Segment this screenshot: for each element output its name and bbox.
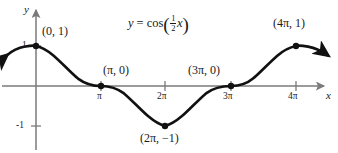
y-tick-label-1: 1 — [22, 41, 27, 51]
point-marker-4pi-1 — [293, 43, 299, 49]
point-label-two-pi-neg-one: (2π, −1) — [140, 132, 179, 144]
equation-annotation: y=cos(12x) — [128, 14, 189, 34]
point-marker-0-1 — [33, 43, 39, 49]
equation-denominator: 2 — [170, 24, 176, 33]
cosine-graph-figure: y x 1 -1 π 2π 3π 4π (0, 1) (π, 0) (3π, 0… — [0, 0, 338, 153]
y-tick-label-neg1: -1 — [16, 121, 24, 131]
x-tick-label-2pi: 2π — [157, 92, 167, 102]
x-axis-label: x — [326, 90, 331, 101]
point-marker-3pi-0 — [228, 83, 234, 89]
equation-fraction: 12 — [170, 14, 176, 32]
point-label-origin-one: (0, 1) — [42, 25, 68, 37]
equation-equals: = — [137, 16, 144, 30]
point-label-four-pi-one: (4π, 1) — [273, 17, 305, 29]
point-marker-pi-0 — [98, 83, 104, 89]
x-tick-label-4pi: 4π — [288, 92, 298, 102]
y-axis-label: y — [24, 4, 29, 15]
x-tick-label-3pi: 3π — [223, 92, 233, 102]
x-tick-label-pi: π — [97, 92, 102, 102]
equation-paren-open: ( — [163, 15, 169, 34]
equation-paren-close: ) — [182, 15, 188, 34]
equation-lhs: y — [128, 16, 134, 30]
point-label-pi-zero: (π, 0) — [103, 64, 129, 76]
point-label-three-pi-zero: (3π, 0) — [188, 64, 220, 76]
point-marker-2pi-neg1 — [162, 123, 168, 129]
equation-function: cos — [147, 16, 164, 30]
